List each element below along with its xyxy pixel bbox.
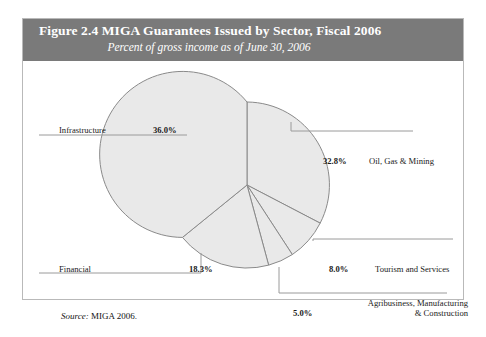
figure-header-band: Figure 2.4 MIGA Guarantees Issued by Sec… [23, 19, 463, 61]
figure-subtitle: Percent of gross income as of June 30, 2… [23, 41, 463, 53]
callout-agribusiness-value: 5.0% [293, 308, 312, 318]
callout-tourism-services-label: Tourism and Services [375, 264, 449, 274]
source-note: Source: MIGA 2006. [61, 311, 137, 321]
callout-tourism-services-value: 8.0% [329, 264, 348, 274]
callout-oil-gas-mining-label: Oil, Gas & Mining [369, 156, 434, 166]
callout-financial-value: 18.3% [189, 264, 213, 274]
callout-agribusiness-label: Agribusiness, Manufacturing & Constructi… [343, 298, 468, 318]
figure-frame: Figure 2.4 MIGA Guarantees Issued by Sec… [22, 18, 464, 300]
callout-infrastructure-label: Infrastructure [59, 125, 106, 135]
callout-agribusiness-label-line1: Agribusiness, Manufacturing [368, 298, 468, 308]
callout-oil-gas-mining-value: 32.8% [323, 156, 347, 166]
source-label: Source: [61, 311, 89, 321]
callout-financial-label: Financial [59, 264, 91, 274]
plot-area: Infrastructure 36.0% 32.8% Oil, Gas & Mi… [23, 61, 463, 301]
figure-title: Figure 2.4 MIGA Guarantees Issued by Sec… [39, 23, 381, 39]
callout-agribusiness-label-line2: & Construction [415, 308, 468, 318]
pie-slices [100, 71, 330, 268]
leader-line-oil [291, 122, 413, 131]
source-value: MIGA 2006. [91, 311, 137, 321]
callout-infrastructure-value: 36.0% [153, 125, 177, 135]
leader-line-tourism [313, 239, 453, 241]
